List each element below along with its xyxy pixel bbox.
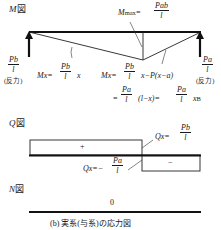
right-eq2-den: l <box>125 95 127 104</box>
left-reaction-note: (反力) <box>4 78 22 85</box>
right-eq-den: l <box>128 72 130 81</box>
qneg-leader <box>128 160 142 170</box>
qneg-eq-lhs: Qx=− <box>83 165 103 173</box>
right-eq-fraction: Pb l <box>124 63 135 81</box>
right-eq-tail: x−P(x−a) <box>141 72 173 80</box>
mmax-leader <box>130 22 142 47</box>
qneg-den: l <box>116 166 118 175</box>
right-eq2-sub: B <box>197 95 201 102</box>
mmax-var: M <box>118 8 125 17</box>
right-reaction-fraction: Pa l <box>202 56 213 74</box>
right-reaction-note: (反力) <box>196 78 214 85</box>
left-reaction-num: Pb <box>8 56 19 65</box>
right-eq2-den2: l <box>180 95 182 104</box>
left-eq-den: l <box>64 72 66 81</box>
shear-negative-sign: − <box>168 159 173 167</box>
right-eq2-num: Pa <box>121 86 132 95</box>
moment-curve <box>29 32 201 60</box>
q-diagram-title: Q図 <box>9 119 25 128</box>
left-eq-fraction: Pb l <box>60 63 71 81</box>
right-eq2-lead: = <box>113 95 118 103</box>
m-diagram-title: M図 <box>9 5 26 14</box>
m-title-var: M <box>9 4 17 14</box>
mmax-fraction: Pab l <box>154 2 169 20</box>
shear-positive-region <box>30 140 142 155</box>
qpos-fraction: Pb l <box>180 124 191 142</box>
right-eq2-fraction: Pa l <box>121 86 132 104</box>
mmax-eq: = <box>136 8 141 17</box>
mmax-num: Pab <box>154 2 169 11</box>
mmax-sub: max <box>125 9 136 16</box>
left-eq-tail: x <box>77 72 81 80</box>
right-eq2-mid: (l−x)= <box>138 95 160 103</box>
right-eq2-fraction2: Pa l <box>176 86 187 104</box>
right-eq2-num2: Pa <box>176 86 187 95</box>
qpos-eq-lhs: Qx= <box>155 133 170 141</box>
m-title-suffix: 図 <box>17 4 26 14</box>
qpos-num: Pb <box>180 124 191 133</box>
mmax-label: Mmax= <box>118 9 140 17</box>
left-eq-lhs: Mx= <box>37 72 53 80</box>
right-eq2-tail: xB <box>193 95 201 103</box>
right-reaction-num: Pa <box>202 56 213 65</box>
left-reaction-fraction: Pb l <box>8 56 19 74</box>
q-title-suffix: 図 <box>16 118 25 128</box>
n-title-suffix: 図 <box>15 184 24 194</box>
left-eq-num: Pb <box>60 63 71 72</box>
mmax-den: l <box>160 11 162 20</box>
shear-positive-sign: + <box>80 143 85 151</box>
qpos-den: l <box>184 133 186 142</box>
qpos-leader <box>142 140 153 148</box>
qneg-fraction: Pa l <box>112 157 123 175</box>
left-eq-leader <box>71 47 72 58</box>
figure-caption: (b) 実系(与系)の応力図 <box>50 220 131 228</box>
n-diagram-title: N図 <box>9 185 24 194</box>
right-eq-lhs: Mx= <box>101 72 117 80</box>
diagram-canvas <box>0 0 221 230</box>
left-reaction-den: l <box>12 65 14 74</box>
right-eq-leader <box>162 50 166 64</box>
right-reaction-den: l <box>206 65 208 74</box>
right-eq-num: Pb <box>124 63 135 72</box>
axial-value: 0 <box>110 199 114 207</box>
qneg-num: Pa <box>112 157 123 166</box>
